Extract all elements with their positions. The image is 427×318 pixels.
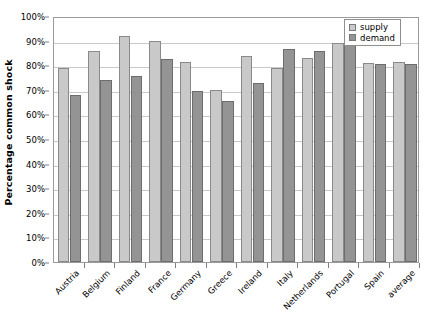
bar-demand [161, 59, 173, 262]
bar-demand [405, 64, 417, 262]
x-axis-tick-label: Greece [205, 268, 233, 296]
y-axis-tick-mark [45, 66, 49, 67]
x-axis-tick-label: Italy [275, 268, 295, 288]
bar-supply [180, 62, 192, 262]
y-axis-tick-labels: 0%10%20%30%40%50%60%70%80%90%100% [16, 17, 49, 263]
bar-group [85, 18, 116, 262]
legend-item-demand: demand [349, 34, 395, 43]
bar-supply [363, 63, 375, 262]
chart-legend: supply demand [344, 19, 401, 46]
x-axis-tick-label: Spain [362, 268, 386, 292]
y-axis-tick-label: 60% [26, 110, 45, 120]
legend-swatch-supply [349, 24, 356, 31]
y-axis-tick-label: 80% [26, 61, 45, 71]
bar-group [298, 18, 329, 262]
y-axis-tick-label: 40% [26, 160, 45, 170]
bar-group [237, 18, 268, 262]
y-axis-tick-mark [45, 90, 49, 91]
x-axis-tick-label: Finland [114, 268, 143, 297]
bar-group [329, 18, 360, 262]
bar-supply [271, 68, 283, 262]
bar-chart: Percentage common shock 0%10%20%30%40%50… [0, 0, 427, 318]
y-axis-title-text: Percentage common shock [3, 59, 14, 205]
bar-demand [192, 91, 204, 262]
y-axis-tick-label: 20% [26, 209, 45, 219]
y-axis-tick-label: 50% [26, 135, 45, 145]
y-axis-tick-label: 10% [26, 233, 45, 243]
y-axis-tick-mark [45, 238, 49, 239]
y-axis-tick-mark [45, 164, 49, 165]
bar-group [115, 18, 146, 262]
x-axis-tick-label: Austria [53, 268, 81, 296]
bar-supply [332, 43, 344, 262]
x-axis-tick-label: Germany [169, 268, 204, 303]
bar-demand [70, 95, 82, 262]
bar-demand [222, 101, 234, 262]
y-axis-tick-mark [45, 140, 49, 141]
x-axis-tick-label: Portugal [324, 268, 356, 300]
y-axis-tick-mark [45, 213, 49, 214]
bar-demand [344, 33, 356, 262]
y-axis-tick-label: 100% [21, 12, 45, 22]
bars-layer [54, 18, 418, 262]
x-axis-tick-label: average [385, 268, 417, 300]
plot-area [53, 17, 419, 263]
bar-demand [100, 80, 112, 262]
x-axis-tick-mark [419, 263, 420, 268]
x-axis-tick-label: Ireland [236, 268, 264, 296]
y-axis-tick-mark [45, 263, 49, 264]
bar-demand [253, 83, 265, 262]
bar-group [54, 18, 85, 262]
bar-supply [119, 36, 131, 262]
x-axis-tick-label: Belgium [80, 268, 112, 300]
bar-supply [58, 68, 70, 262]
y-axis-tick-label: 30% [26, 184, 45, 194]
bar-group [390, 18, 421, 262]
bar-demand [314, 51, 326, 262]
bar-supply [241, 56, 253, 262]
bar-supply [149, 41, 161, 262]
bar-supply [88, 51, 100, 262]
x-axis-tick-label: France [146, 268, 173, 295]
legend-item-supply: supply [349, 23, 395, 32]
legend-swatch-demand [349, 34, 356, 41]
legend-label-supply: supply [360, 23, 388, 32]
bar-demand [375, 64, 387, 262]
legend-label-demand: demand [360, 34, 395, 43]
y-axis-tick-mark [45, 41, 49, 42]
y-axis-tick-label: 0% [32, 258, 46, 268]
bar-supply [302, 58, 314, 262]
y-axis-tick-label: 70% [26, 86, 45, 96]
y-axis-tick-mark [45, 115, 49, 116]
y-axis-tick-label: 90% [26, 37, 45, 47]
bar-group [359, 18, 390, 262]
bar-group [146, 18, 177, 262]
y-axis-tick-mark [45, 17, 49, 18]
bar-supply [393, 62, 405, 262]
bar-group [207, 18, 238, 262]
bar-group [176, 18, 207, 262]
bar-demand [131, 76, 143, 262]
y-axis-tick-mark [45, 189, 49, 190]
y-axis-title: Percentage common shock [0, 0, 16, 265]
x-axis-tick-labels: AustriaBelgiumFinlandFranceGermanyGreece… [53, 268, 419, 318]
bar-supply [210, 90, 222, 262]
bar-group [268, 18, 299, 262]
bar-demand [283, 49, 295, 262]
